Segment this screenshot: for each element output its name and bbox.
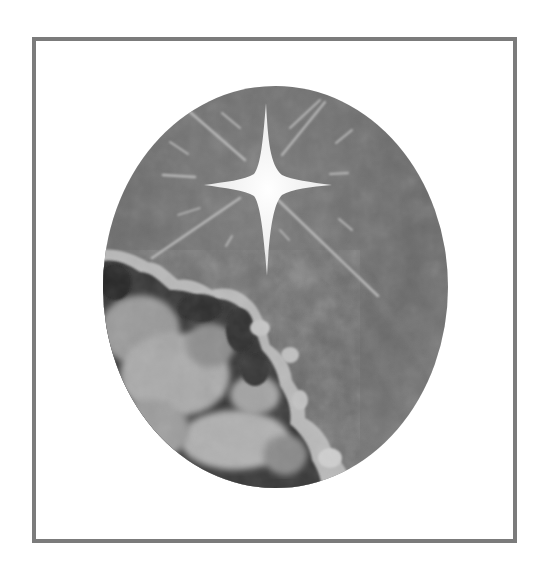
clouds — [99, 250, 360, 496]
oval-vignette — [99, 80, 452, 495]
star-illustration — [0, 0, 550, 567]
